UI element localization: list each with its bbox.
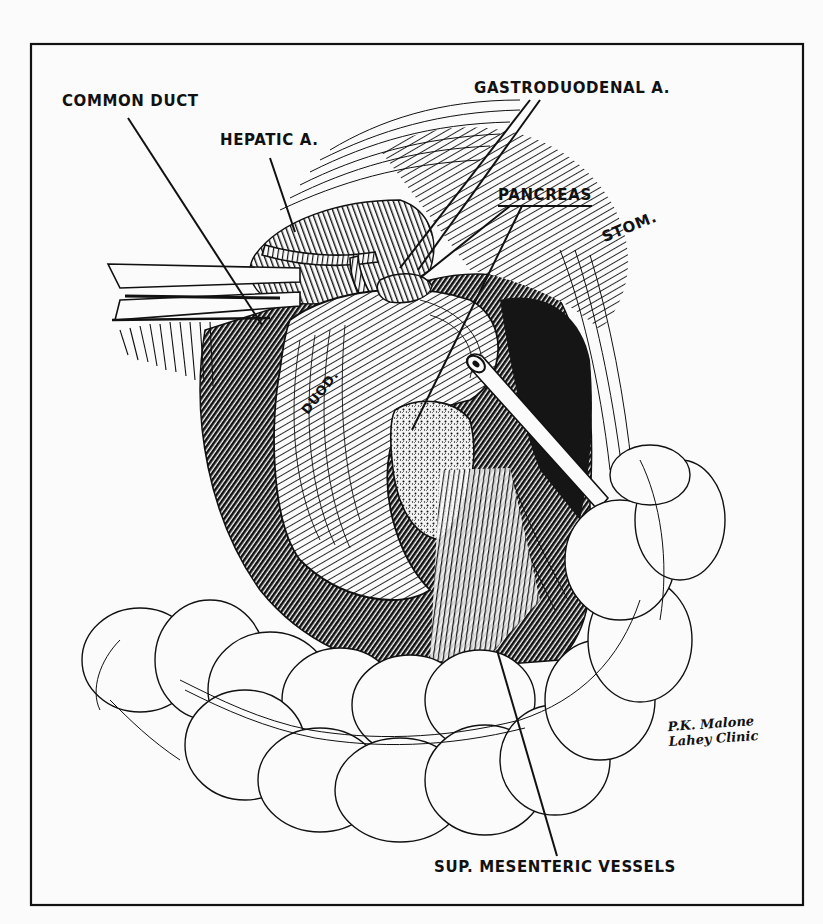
- label-gastroduodenal-a: GASTRODUODENAL A.: [474, 79, 670, 97]
- abdominal-wall-left: [120, 322, 213, 386]
- leader-common-duct: [128, 118, 262, 325]
- label-pancreas: PANCREAS: [498, 186, 592, 207]
- leader-hepatic-a: [270, 158, 295, 232]
- label-common-duct: COMMON DUCT: [62, 92, 199, 110]
- label-hepatic-a: HEPATIC A.: [220, 131, 319, 149]
- artist-signature: P.K. Malone Lahey Clinic: [667, 713, 759, 749]
- label-sup-mesenteric-vessels: SUP. MESENTERIC VESSELS: [434, 858, 676, 876]
- illustration-stage: COMMON DUCT HEPATIC A. GASTRODUODENAL A.…: [0, 0, 823, 924]
- anatomy-drawing: [0, 0, 823, 924]
